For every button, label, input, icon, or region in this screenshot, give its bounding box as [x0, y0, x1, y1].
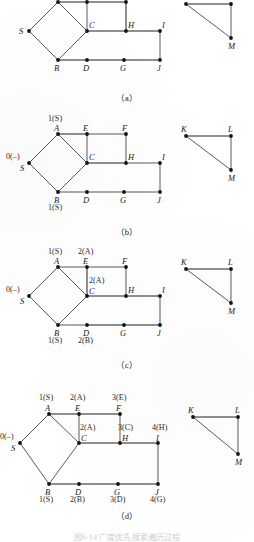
- vertex-label-D: D: [83, 329, 89, 338]
- distance-label-D: 2(B): [70, 496, 85, 504]
- node-L: [229, 2, 233, 6]
- node-D: [85, 58, 89, 62]
- node-B: [56, 190, 60, 194]
- edge-S-A: [29, 2, 58, 31]
- node-K: [184, 134, 188, 138]
- vertex-label-M: M: [228, 174, 235, 183]
- distance-label-G: 3(D): [110, 496, 126, 504]
- vertex-label-S: S: [19, 27, 23, 36]
- node-G: [122, 190, 126, 194]
- vertex-label-I: I: [162, 286, 165, 295]
- vertex-label-L: L: [228, 0, 233, 1]
- vertex-label-F: F: [122, 257, 127, 266]
- node-J: [158, 190, 162, 194]
- node-D: [77, 482, 81, 486]
- vertex-label-J: J: [157, 196, 161, 205]
- node-J: [156, 482, 160, 486]
- vertex-label-J: J: [157, 64, 161, 73]
- edge-K-M: [193, 417, 238, 454]
- distance-label-F: 3(E): [112, 394, 127, 402]
- node-G: [122, 58, 126, 62]
- distance-label-S: 0(–): [0, 433, 14, 441]
- panel-b-graph: [0, 116, 254, 244]
- vertex-label-G: G: [120, 329, 126, 338]
- vertex-label-C: C: [89, 153, 95, 162]
- edge-B-C: [49, 443, 79, 484]
- node-K: [184, 2, 188, 6]
- vertex-label-C: C: [81, 434, 87, 443]
- edge-B-C: [58, 163, 87, 192]
- node-B: [56, 323, 60, 327]
- edge-S-A: [29, 134, 58, 163]
- vertex-label-A: A: [45, 404, 50, 413]
- vertex-label-F: F: [122, 124, 127, 133]
- distance-label-A: 1(S): [39, 394, 53, 402]
- vertex-label-B: B: [54, 196, 59, 205]
- node-S: [27, 294, 31, 298]
- distance-label-E: 2(A): [78, 248, 94, 256]
- panel-a: A E F S C H I B D G J K L M （a）: [0, 0, 254, 102]
- figure-bottom-caption: 图6-14 广度优先搜索遍历过程: [0, 534, 254, 542]
- distance-label-A: 1(S): [48, 248, 62, 256]
- vertex-label-C: C: [89, 21, 95, 30]
- edge-A-C: [58, 134, 87, 163]
- vertex-label-S: S: [20, 297, 24, 306]
- node-D: [85, 323, 89, 327]
- distance-label-E: 2(A): [70, 394, 86, 402]
- node-J: [158, 323, 162, 327]
- vertex-label-A: A: [54, 257, 59, 266]
- node-K: [184, 267, 188, 271]
- edge-K-M: [186, 136, 231, 170]
- node-F: [124, 0, 128, 4]
- vertex-label-J: J: [155, 488, 159, 497]
- vertex-label-L: L: [228, 258, 233, 267]
- edge-K-M: [186, 4, 231, 38]
- vertex-label-F: F: [116, 404, 121, 413]
- edge-S-B: [29, 163, 58, 192]
- vertex-label-K: K: [181, 125, 187, 134]
- vertex-label-S: S: [20, 164, 24, 173]
- node-M: [229, 36, 233, 40]
- edge-B-C: [58, 296, 87, 325]
- node-B: [47, 482, 51, 486]
- edge-A-C: [49, 414, 79, 443]
- vertex-label-I: I: [162, 153, 165, 162]
- vertex-label-I: I: [156, 434, 159, 443]
- vertex-label-H: H: [128, 286, 134, 295]
- vertex-label-G: G: [120, 64, 126, 73]
- distance-label-B: 1(S): [48, 204, 62, 212]
- node-E: [85, 0, 89, 4]
- vertex-label-H: H: [128, 153, 134, 162]
- vertex-label-M: M: [235, 458, 242, 467]
- node-S: [18, 441, 22, 445]
- distance-label-S: 0(–): [6, 153, 20, 161]
- node-K: [191, 415, 195, 419]
- vertex-label-B: B: [54, 329, 59, 338]
- node-S: [27, 29, 31, 33]
- vertex-label-E: E: [83, 257, 88, 266]
- distance-label-I: 4(H): [152, 424, 168, 432]
- vertex-label-D: D: [83, 196, 89, 205]
- panel-caption-c: （c）: [0, 361, 254, 370]
- edge-S-B: [29, 31, 58, 60]
- vertex-label-H: H: [128, 21, 134, 30]
- node-B: [56, 58, 60, 62]
- vertex-label-K: K: [188, 406, 194, 415]
- node-L: [229, 267, 233, 271]
- node-M: [229, 301, 233, 305]
- vertex-label-J: J: [157, 329, 161, 338]
- node-J: [158, 58, 162, 62]
- edge-K-M: [186, 269, 231, 303]
- edge-S-A: [29, 267, 58, 296]
- node-L: [236, 415, 240, 419]
- distance-label-H: 3(C): [118, 424, 133, 432]
- distance-label-B: 1(S): [48, 337, 62, 345]
- panel-d: 1(S) 2(A) 3(E) 0(–) 2(A) 3(C) 4(H) 1(S) …: [0, 372, 254, 532]
- edge-A-C: [58, 267, 87, 296]
- vertex-label-C: C: [89, 287, 95, 296]
- edge-S-B: [29, 296, 58, 325]
- distance-label-A: 1(S): [48, 115, 62, 123]
- vertex-label-D: D: [83, 64, 89, 73]
- edge-A-C: [58, 2, 87, 31]
- panel-b: 1(S) 0(–) 1(S) A E F S C H I B D G J K L…: [0, 116, 254, 244]
